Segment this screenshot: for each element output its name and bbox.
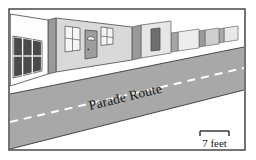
door-arch-window-glass (88, 37, 95, 41)
building-second-side (48, 18, 56, 74)
scale-bar-label: 7 feet (202, 137, 227, 149)
door-knob-icon (87, 49, 89, 51)
building-third-side (132, 25, 141, 60)
building-sixth-far-side (219, 28, 224, 43)
door-dark (151, 28, 160, 51)
building-fourth-side (171, 32, 178, 52)
building-sixth-far-face (224, 26, 238, 42)
street-scene-figure: Parade Route 7 feet (0, 0, 256, 160)
building-fifth-face (205, 28, 219, 46)
scene-canvas: Parade Route 7 feet (0, 0, 256, 160)
building-fourth-face (178, 29, 199, 51)
building-fifth-side (199, 30, 205, 47)
door-arched-window (85, 30, 97, 59)
